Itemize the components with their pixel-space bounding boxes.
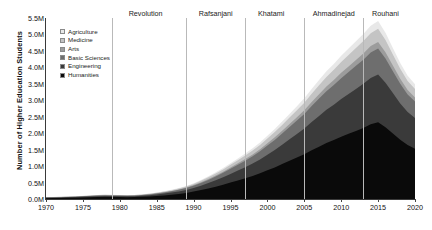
legend-label: Engineering [68,63,101,69]
legend-item-basic-sciences[interactable]: Basic Sciences [60,54,110,62]
legend-swatch-icon [60,64,65,69]
legend-swatch-icon [60,73,65,78]
x-tick-label: 1975 [75,203,91,212]
x-axis-line [46,199,415,200]
legend-item-humanities[interactable]: Humanities [60,71,110,79]
legend-label: Humanities [68,72,99,78]
y-tick-label: 1.0M [4,162,44,171]
legend-swatch-icon [60,47,65,52]
x-tick-label: 2015 [370,203,386,212]
y-tick-label: 0.5M [4,178,44,187]
x-tick-label: 1990 [186,203,202,212]
era-divider-ahmadinejad [304,18,305,199]
x-tick-label: 2000 [259,203,275,212]
area-series-humanities [46,122,415,199]
legend-swatch-icon [60,55,65,60]
x-tick-label: 1980 [112,203,128,212]
x-tick-label: 1995 [223,203,239,212]
x-tick-label: 2005 [296,203,312,212]
y-tick-label: 2.5M [4,112,44,121]
y-axis-ticks: 0.0M0.5M1.0M1.5M2.0M2.5M3.0M3.5M4.0M4.5M… [0,0,44,230]
era-label-rafsanjani: Rafsanjani [199,9,233,18]
y-tick-label: 5.5M [4,14,44,23]
legend-item-engineering[interactable]: Engineering [60,63,110,71]
chart-legend: AgricultureMedicineArtsBasic SciencesEng… [60,28,110,80]
y-tick-label: 1.5M [4,145,44,154]
era-label-ahmadinejad: Ahmadinejad [313,9,355,18]
legend-swatch-icon [60,29,65,34]
legend-item-agriculture[interactable]: Agriculture [60,28,110,36]
era-label-revolution: Revolution [129,9,163,18]
y-tick-label: 3.0M [4,96,44,105]
legend-item-medicine[interactable]: Medicine [60,37,110,45]
legend-label: Medicine [68,37,93,43]
legend-swatch-icon [60,38,65,43]
x-tick-label: 1985 [149,203,165,212]
x-axis-ticks: 1970197519801985199019952000200520102015… [0,203,432,219]
legend-label: Arts [68,46,79,52]
x-tick-label: 2020 [407,203,423,212]
x-tick-label: 1970 [38,203,54,212]
era-label-khatami: Khatami [258,9,284,18]
era-label-rouhani: Rouhani [372,9,399,18]
legend-item-arts[interactable]: Arts [60,45,110,53]
y-tick-label: 4.0M [4,63,44,72]
era-divider-khatami [245,18,246,199]
y-tick-label: 4.5M [4,46,44,55]
y-tick-label: 2.0M [4,129,44,138]
y-tick-label: 3.5M [4,79,44,88]
era-divider-revolution [112,18,113,199]
x-tick-label: 2010 [333,203,349,212]
era-divider-rafsanjani [186,18,187,199]
x-tick-mark [415,199,416,202]
y-tick-label: 5.0M [4,30,44,39]
legend-label: Agriculture [68,29,98,35]
legend-label: Basic Sciences [68,55,110,61]
chart-root: Number of Higher Education Students 0.0M… [0,0,432,230]
era-divider-rouhani [363,18,364,199]
